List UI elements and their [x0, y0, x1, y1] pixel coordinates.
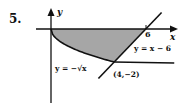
x-axis-label: x: [169, 32, 176, 42]
horizontal-line-y-neg-2: [114, 62, 174, 63]
problem-number: 5.: [9, 12, 22, 26]
region-diagram: 5. y x 6 y = x − 6 y = −√x (4,−2): [0, 0, 194, 107]
intersection-label: (4,−2): [113, 70, 139, 79]
line-equation-label: y = x − 6: [133, 44, 171, 53]
y-axis-label: y: [56, 7, 63, 17]
x-tick-label-6: 6: [145, 29, 151, 39]
sqrt-equation-label: y = −√x: [54, 64, 87, 73]
y-axis-arrow-icon: [48, 8, 55, 16]
